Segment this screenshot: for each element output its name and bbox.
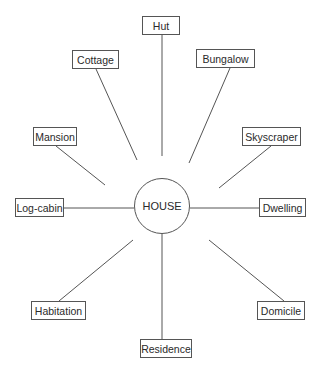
connector-mansion: [56, 146, 105, 185]
node-label: Bungalow: [202, 53, 248, 65]
connector-skyscraper: [219, 146, 271, 188]
node-habitation: Habitation: [31, 301, 86, 320]
center-node-label: HOUSE: [142, 200, 181, 212]
node-label: Habitation: [35, 305, 82, 317]
node-residence: Residence: [140, 339, 192, 358]
node-cottage: Cottage: [72, 50, 119, 69]
node-label: Hut: [153, 20, 169, 32]
node-bungalow: Bungalow: [196, 49, 255, 68]
node-skyscraper: Skyscraper: [242, 127, 301, 146]
connector-cottage: [96, 69, 137, 160]
connector-bungalow: [189, 68, 230, 163]
node-hut: Hut: [142, 16, 180, 35]
node-label: Skyscraper: [245, 131, 298, 143]
node-mansion: Mansion: [33, 127, 77, 146]
connector-habitation: [59, 240, 133, 301]
node-label: Log-cabin: [16, 202, 62, 214]
node-label: Residence: [141, 343, 191, 355]
connector-domicile: [209, 240, 284, 301]
center-node-house: HOUSE: [134, 178, 190, 234]
node-label: Cottage: [77, 54, 114, 66]
node-label: Mansion: [35, 131, 75, 143]
node-domicile: Domicile: [257, 301, 305, 320]
node-dwelling: Dwelling: [259, 198, 306, 217]
node-label: Domicile: [261, 305, 301, 317]
node-label: Dwelling: [263, 202, 303, 214]
node-log-cabin: Log-cabin: [15, 198, 64, 217]
